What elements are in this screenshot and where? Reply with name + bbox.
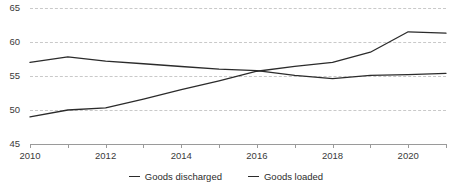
y-tick-label: 60 [0, 37, 20, 47]
legend-label: Goods loaded [264, 172, 323, 182]
legend-swatch-icon [248, 176, 259, 177]
legend-item[interactable]: Goods discharged [129, 172, 222, 182]
x-tick-mark [106, 144, 107, 148]
legend-swatch-icon [129, 176, 140, 177]
x-tick-mark [219, 144, 220, 148]
x-tick-mark [446, 144, 447, 148]
series-line [30, 32, 446, 117]
x-tick-mark [143, 144, 144, 148]
chart-legend: Goods dischargedGoods loaded [0, 172, 452, 182]
x-tick-mark [333, 144, 334, 148]
x-tick-mark [68, 144, 69, 148]
plot-area: 4550556065 201020122014201620182020 [30, 8, 446, 144]
x-tick-mark [295, 144, 296, 148]
y-tick-label: 55 [0, 71, 20, 81]
series-lines [30, 8, 446, 144]
legend-label: Goods discharged [145, 172, 222, 182]
y-tick-label: 65 [0, 3, 20, 13]
x-tick-mark [370, 144, 371, 148]
x-tick-mark [181, 144, 182, 148]
x-tick-mark [257, 144, 258, 148]
y-tick-label: 45 [0, 139, 20, 149]
x-tick-label: 2020 [388, 151, 428, 161]
x-tick-label: 2012 [86, 151, 126, 161]
x-axis-line [30, 144, 446, 145]
x-tick-mark [408, 144, 409, 148]
x-tick-mark [30, 144, 31, 148]
x-tick-label: 2016 [237, 151, 277, 161]
legend-item[interactable]: Goods loaded [248, 172, 323, 182]
y-tick-label: 50 [0, 105, 20, 115]
line-chart: 4550556065 201020122014201620182020 Good… [0, 0, 452, 193]
x-tick-label: 2014 [161, 151, 201, 161]
x-tick-label: 2018 [313, 151, 353, 161]
x-tick-label: 2010 [10, 151, 50, 161]
